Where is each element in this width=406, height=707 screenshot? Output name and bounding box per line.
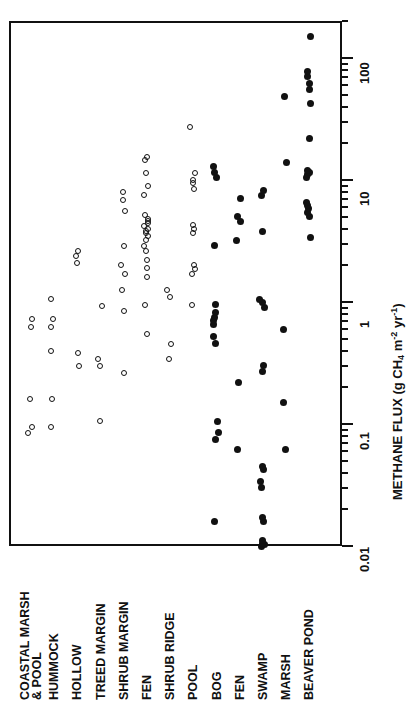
data-point (234, 213, 241, 220)
category-label-line1: SHRUB RIDGE (163, 612, 177, 700)
axis-tick-major (342, 423, 353, 425)
data-point (212, 340, 219, 347)
data-point (142, 212, 148, 218)
data-point (144, 154, 150, 160)
axis-tick-minor (342, 435, 348, 437)
data-point (167, 294, 173, 300)
axis-tick-minor (342, 350, 348, 352)
data-point (25, 430, 31, 436)
data-point (191, 186, 197, 192)
category-label-marsh: MARSH (280, 654, 292, 700)
axis-tick-minor (342, 386, 348, 388)
axis-tick-minor (342, 429, 348, 431)
axis-tick-minor (342, 365, 348, 367)
axis-tick-minor (342, 307, 348, 309)
axis-tick-minor (342, 121, 348, 123)
category-label-line1: MARSH (279, 654, 293, 700)
data-point (212, 436, 219, 443)
data-point (307, 33, 314, 40)
axis-tick-minor (342, 338, 348, 340)
axis-tick-major (342, 57, 353, 59)
axis-tick-minor (342, 20, 348, 22)
axis-tick-minor (342, 472, 348, 474)
category-label-line1: SHRUB MARGIN (117, 601, 131, 700)
category-label-fen: FEN (234, 675, 246, 700)
data-point (214, 418, 221, 425)
data-point (141, 243, 147, 249)
axis-tick-label: 1 (357, 321, 372, 328)
axis-tick-minor (342, 69, 348, 71)
category-label-coastal-marsh: COASTAL MARSH& POOL (19, 591, 43, 700)
data-point (142, 302, 148, 308)
category-label-hummock: HUMMOCK (48, 633, 60, 700)
data-point (145, 183, 151, 189)
value-axis-title: METHANE FLUX (g CH4 m-2 yr-1) (389, 303, 406, 500)
axis-tick-minor (342, 185, 348, 187)
data-point (144, 274, 150, 280)
data-point (283, 159, 290, 166)
axis-tick-minor (342, 508, 348, 510)
category-label-line1: BEAVER POND (302, 609, 316, 700)
category-label-line1: SWAMP (256, 653, 270, 700)
data-point (121, 243, 127, 249)
axis-tick-major (342, 301, 353, 303)
category-label-shrub-margin: SHRUB MARGIN (118, 601, 130, 700)
data-point (95, 356, 101, 362)
data-point (144, 331, 150, 337)
data-point (99, 303, 105, 309)
axis-tick-minor (342, 442, 348, 444)
data-point (212, 309, 219, 316)
data-point (215, 429, 222, 436)
data-point (121, 308, 127, 314)
data-point (122, 271, 128, 277)
axis-tick-label: 0.01 (357, 547, 372, 572)
axis-tick-minor (342, 228, 348, 230)
data-point (29, 316, 35, 322)
axis-tick-minor (342, 216, 348, 218)
category-label-line1: HOLLOW (70, 644, 84, 700)
category-label-line1: TREED MARGIN (94, 603, 108, 700)
data-point (212, 301, 219, 308)
axis-tick-minor (342, 198, 348, 200)
data-point (259, 228, 266, 235)
data-point (49, 396, 55, 402)
axis-tick-minor (342, 264, 348, 266)
category-label-swamp: SWAMP (257, 653, 269, 700)
axis-tick-minor (342, 94, 348, 96)
axis-tick-minor (342, 328, 348, 330)
axis-tick-minor (342, 84, 348, 86)
data-point (143, 170, 149, 176)
axis-tick-minor (342, 243, 348, 245)
data-point (211, 169, 218, 176)
axis-tick-minor (342, 320, 348, 322)
category-label-bog: BOG (211, 672, 223, 700)
category-label-line1: POOL (186, 665, 200, 700)
axis-tick-minor (342, 206, 348, 208)
data-point (144, 257, 150, 263)
data-point (192, 170, 198, 176)
data-point (304, 167, 311, 174)
data-point (256, 296, 263, 303)
axis-tick-minor (342, 487, 348, 489)
data-point (121, 370, 127, 376)
category-label-line1: FEN (233, 675, 247, 700)
value-axis-line (340, 21, 342, 546)
data-point (211, 242, 218, 249)
axis-tick-minor (342, 76, 348, 78)
category-label-hollow: HOLLOW (71, 644, 83, 700)
axis-tick-minor (342, 191, 348, 193)
data-point (307, 234, 314, 241)
data-point (233, 237, 240, 244)
category-label-line2: & POOL (31, 591, 43, 700)
axis-tick-major (342, 179, 353, 181)
data-point (76, 363, 82, 369)
axis-tick-minor (342, 63, 348, 65)
data-point (210, 163, 217, 170)
axis-tick-label: 100 (357, 62, 372, 84)
axis-tick-label: 10 (357, 192, 372, 206)
data-point (304, 68, 311, 75)
data-point (119, 287, 125, 293)
data-point (122, 208, 128, 214)
data-point (306, 135, 313, 142)
